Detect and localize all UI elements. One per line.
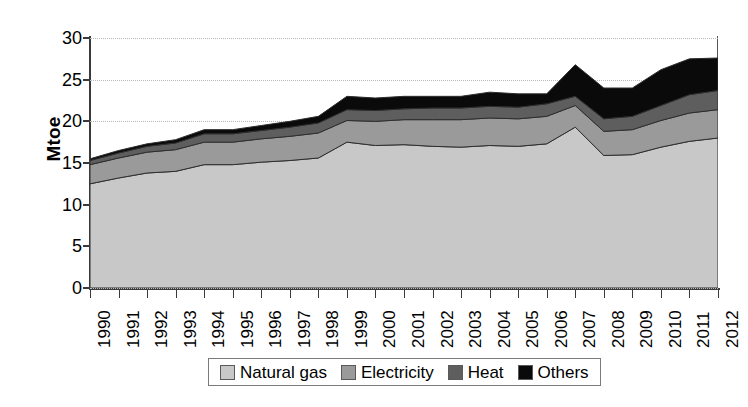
legend-label: Natural gas <box>240 364 327 381</box>
x-tick-1997 <box>290 290 291 298</box>
x-tick-1990 <box>90 290 91 298</box>
y-tick-15 <box>83 162 90 164</box>
y-axis-label-25: 25 <box>46 71 82 89</box>
x-axis-label-1994: 1994 <box>210 310 227 348</box>
x-tick-2010 <box>661 290 662 298</box>
x-axis-label-2008: 2008 <box>610 310 627 348</box>
x-tick-2005 <box>518 290 519 298</box>
x-tick-1993 <box>176 290 177 298</box>
x-axis-label-1993: 1993 <box>182 310 199 348</box>
x-axis-label-1995: 1995 <box>239 310 256 348</box>
area-series-group <box>90 38 718 288</box>
x-tick-2012 <box>718 290 719 298</box>
x-tick-1996 <box>261 290 262 298</box>
x-axis-label-2012: 2012 <box>724 310 741 348</box>
legend-label: Others <box>538 364 589 381</box>
x-axis-label-2006: 2006 <box>553 310 570 348</box>
x-tick-2002 <box>433 290 434 298</box>
x-axis-label-2007: 2007 <box>581 310 598 348</box>
x-tick-2006 <box>547 290 548 298</box>
x-tick-2011 <box>689 290 690 298</box>
x-tick-2007 <box>575 290 576 298</box>
x-tick-1991 <box>119 290 120 298</box>
chart-legend: Natural gasElectricityHeatOthers <box>208 358 601 386</box>
x-axis-label-1999: 1999 <box>353 310 370 348</box>
gridline-0 <box>90 288 718 289</box>
legend-item-natural-gas[interactable]: Natural gas <box>220 364 327 381</box>
legend-swatch-icon <box>518 365 533 380</box>
x-axis-label-2003: 2003 <box>467 310 484 348</box>
y-axis-label-0: 0 <box>46 279 82 297</box>
legend-swatch-icon <box>448 365 463 380</box>
x-axis-label-2010: 2010 <box>667 310 684 348</box>
x-tick-2003 <box>461 290 462 298</box>
x-tick-2008 <box>604 290 605 298</box>
x-tick-1999 <box>347 290 348 298</box>
x-axis-label-1997: 1997 <box>296 310 313 348</box>
x-axis-label-1998: 1998 <box>324 310 341 348</box>
x-tick-2009 <box>632 290 633 298</box>
legend-item-heat[interactable]: Heat <box>448 364 504 381</box>
x-axis-label-1992: 1992 <box>153 310 170 348</box>
y-tick-30 <box>83 37 90 39</box>
x-axis-label-2004: 2004 <box>496 310 513 348</box>
legend-label: Heat <box>468 364 504 381</box>
x-tick-2001 <box>404 290 405 298</box>
x-tick-1994 <box>204 290 205 298</box>
y-axis-label-5: 5 <box>46 237 82 255</box>
y-tick-0 <box>83 287 90 289</box>
legend-item-others[interactable]: Others <box>518 364 589 381</box>
legend-item-electricity[interactable]: Electricity <box>341 364 434 381</box>
x-axis-label-2001: 2001 <box>410 310 427 348</box>
y-axis-label-20: 20 <box>46 112 82 130</box>
y-tick-20 <box>83 120 90 122</box>
x-axis-label-2009: 2009 <box>638 310 655 348</box>
plot-area <box>90 38 718 288</box>
x-tick-2004 <box>490 290 491 298</box>
legend-swatch-icon <box>220 365 235 380</box>
x-tick-2000 <box>375 290 376 298</box>
x-axis-label-2011: 2011 <box>695 311 712 348</box>
x-axis-label-1991: 1991 <box>125 310 142 348</box>
y-tick-5 <box>83 245 90 247</box>
x-axis-label-1996: 1996 <box>267 310 284 348</box>
y-axis-label-30: 30 <box>46 29 82 47</box>
x-axis-label-1990: 1990 <box>96 310 113 348</box>
stacked-area-chart: Mtoe 051015202530 1990199119921993199419… <box>0 0 748 407</box>
y-axis-label-10: 10 <box>46 196 82 214</box>
x-tick-1995 <box>233 290 234 298</box>
x-axis-label-2002: 2002 <box>439 310 456 348</box>
y-tick-25 <box>83 79 90 81</box>
x-tick-1998 <box>318 290 319 298</box>
legend-label: Electricity <box>361 364 434 381</box>
legend-swatch-icon <box>341 365 356 380</box>
y-axis-label-15: 15 <box>46 154 82 172</box>
x-tick-1992 <box>147 290 148 298</box>
x-axis-label-2000: 2000 <box>381 310 398 348</box>
y-tick-10 <box>83 204 90 206</box>
x-axis-label-2005: 2005 <box>524 310 541 348</box>
